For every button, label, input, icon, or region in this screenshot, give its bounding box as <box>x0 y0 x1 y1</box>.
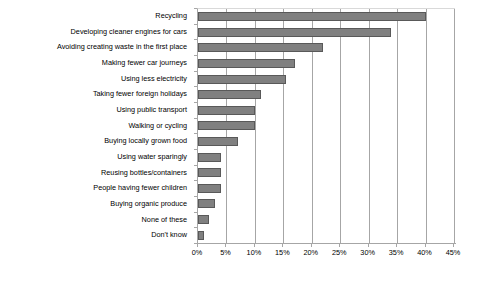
gridline <box>454 9 455 243</box>
bar-row <box>198 40 454 56</box>
bar <box>198 28 391 37</box>
bar-row <box>198 196 454 212</box>
category-label: Recycling <box>155 12 187 20</box>
x-axis-tick-label: 40% <box>417 248 432 257</box>
bar <box>198 215 209 224</box>
x-axis-tick <box>339 244 340 247</box>
category-label-row: Making fewer car journeys <box>0 55 192 71</box>
x-axis-tick <box>368 244 369 247</box>
category-label-row: Using water sparingly <box>0 149 192 165</box>
x-axis-tick-label: 5% <box>220 248 231 257</box>
bar <box>198 168 221 177</box>
category-label: Avoiding creating waste in the first pla… <box>57 43 187 51</box>
category-label: Using water sparingly <box>117 153 187 161</box>
category-label: Using less electricity <box>121 75 187 83</box>
category-label-row: None of these <box>0 212 192 228</box>
category-label-row: Don't know <box>0 227 192 243</box>
bar <box>198 184 221 193</box>
bar <box>198 153 221 162</box>
category-label-row: Avoiding creating waste in the first pla… <box>0 39 192 55</box>
bar-row <box>198 181 454 197</box>
x-axis-tick <box>396 244 397 247</box>
category-label-row: Buying locally grown food <box>0 133 192 149</box>
x-axis-tick <box>254 244 255 247</box>
category-label-row: Taking fewer foreign holidays <box>0 86 192 102</box>
category-label: People having fewer children <box>93 184 187 192</box>
category-label: Taking fewer foreign holidays <box>93 90 187 98</box>
bar <box>198 121 255 130</box>
bar <box>198 75 286 84</box>
category-label: Developing cleaner engines for cars <box>71 28 187 36</box>
bar-row <box>198 56 454 72</box>
x-axis-tick-label: 10% <box>247 248 262 257</box>
bar <box>198 12 426 21</box>
bar-row <box>198 227 454 243</box>
category-label-row: Using less electricity <box>0 71 192 87</box>
x-axis-tick <box>311 244 312 247</box>
bar-row <box>198 87 454 103</box>
bar <box>198 199 215 208</box>
x-axis-tick-label: 25% <box>332 248 347 257</box>
x-axis-tick-label: 35% <box>389 248 404 257</box>
bar-chart: RecyclingDeveloping cleaner engines for … <box>0 0 483 291</box>
category-label-row: Buying organic produce <box>0 196 192 212</box>
x-axis-tick <box>197 244 198 247</box>
category-label: Buying organic produce <box>110 200 187 208</box>
bar <box>198 43 323 52</box>
bar-row <box>198 9 454 25</box>
category-label-row: People having fewer children <box>0 180 192 196</box>
bar-row <box>198 165 454 181</box>
category-label: None of these <box>142 216 187 224</box>
x-axis-tick <box>453 244 454 247</box>
category-label: Don't know <box>151 231 187 239</box>
x-axis-tick-label: 20% <box>303 248 318 257</box>
bar <box>198 106 255 115</box>
category-label-row: Developing cleaner engines for cars <box>0 24 192 40</box>
bars-layer <box>198 9 454 243</box>
x-axis-tick <box>425 244 426 247</box>
category-label: Buying locally grown food <box>104 137 187 145</box>
x-axis-tick <box>282 244 283 247</box>
x-axis-tick-label: 15% <box>275 248 290 257</box>
category-label: Making fewer car journeys <box>102 59 187 67</box>
bar <box>198 59 295 68</box>
bar <box>198 231 204 240</box>
category-label-row: Walking or cycling <box>0 118 192 134</box>
bar-row <box>198 212 454 228</box>
x-axis-tick-label: 30% <box>360 248 375 257</box>
category-label: Walking or cycling <box>128 122 187 130</box>
bar-row <box>198 103 454 119</box>
category-label: Reusing bottles/containers <box>101 169 187 177</box>
x-axis-tick-labels: 0%5%10%15%20%25%30%35%40%45% <box>197 248 456 260</box>
category-label-row: Reusing bottles/containers <box>0 165 192 181</box>
bar-row <box>198 134 454 150</box>
bar <box>198 90 261 99</box>
category-label-column: RecyclingDeveloping cleaner engines for … <box>0 8 192 243</box>
bar <box>198 137 238 146</box>
category-label-row: Using public transport <box>0 102 192 118</box>
category-label-row: Recycling <box>0 8 192 24</box>
x-axis-tick-label: 45% <box>446 248 461 257</box>
bar-row <box>198 118 454 134</box>
bar-row <box>198 149 454 165</box>
x-axis-tick <box>225 244 226 247</box>
bar-row <box>198 25 454 41</box>
plot-area <box>197 8 455 243</box>
bar-row <box>198 71 454 87</box>
category-label: Using public transport <box>116 106 187 114</box>
x-axis-tick-label: 0% <box>192 248 203 257</box>
